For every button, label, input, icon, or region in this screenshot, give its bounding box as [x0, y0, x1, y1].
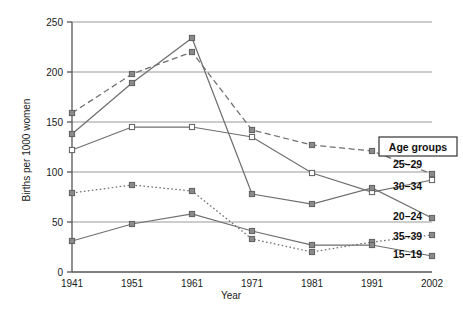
y-tick-label: 200	[46, 67, 63, 78]
legend-entry-25-29: 25–29	[393, 158, 422, 170]
data-point-marker	[249, 127, 254, 132]
chart-container: 050100150200250 194119511961197119811991…	[0, 0, 463, 314]
data-point-marker	[369, 242, 374, 247]
legend-title-text: Age groups	[389, 141, 447, 153]
data-point-marker	[129, 80, 134, 85]
data-point-marker	[69, 110, 74, 115]
data-point-marker	[189, 211, 194, 216]
data-point-marker	[369, 148, 374, 153]
x-axis-title: Year	[221, 290, 242, 301]
data-point-marker	[249, 134, 254, 139]
data-point-marker	[429, 215, 434, 220]
data-point-marker	[249, 191, 254, 196]
legend-entry-30-34: 30–34	[393, 180, 422, 192]
data-point-marker	[129, 124, 134, 129]
births-line-chart: 050100150200250 194119511961197119811991…	[0, 0, 463, 314]
x-tick-label: 1991	[361, 278, 384, 289]
x-tick-label: 2002	[421, 278, 444, 289]
data-point-marker	[129, 182, 134, 187]
data-point-marker	[309, 242, 314, 247]
data-point-marker	[369, 185, 374, 190]
y-axis-title: Births per 1000 women	[21, 99, 32, 202]
data-point-marker	[429, 232, 434, 237]
data-point-marker	[69, 238, 74, 243]
data-point-marker	[429, 253, 434, 258]
data-point-marker	[189, 188, 194, 193]
data-point-marker	[189, 124, 194, 129]
legend-entry-20-24: 20–24	[393, 210, 422, 222]
data-point-marker	[309, 170, 314, 175]
data-point-marker	[309, 249, 314, 254]
x-tick-label: 1981	[301, 278, 324, 289]
data-point-marker	[309, 201, 314, 206]
data-point-marker	[69, 190, 74, 195]
x-tick-label: 1941	[61, 278, 84, 289]
data-point-marker	[129, 221, 134, 226]
legend-entry-15-19: 15–19	[393, 248, 422, 260]
data-point-marker	[189, 35, 194, 40]
data-point-marker	[309, 142, 314, 147]
x-tick-label: 1951	[121, 278, 144, 289]
legend-entry-35-39: 35–39	[393, 230, 422, 242]
y-tick-label: 100	[46, 167, 63, 178]
data-point-marker	[69, 131, 74, 136]
data-point-marker	[189, 49, 194, 54]
y-tick-label: 0	[57, 267, 63, 278]
x-tick-label: 1971	[241, 278, 264, 289]
data-point-marker	[69, 147, 74, 152]
x-tick-label: 1961	[181, 278, 204, 289]
chart-background	[0, 0, 463, 314]
y-tick-label: 50	[52, 217, 64, 228]
y-tick-label: 250	[46, 17, 63, 28]
y-tick-label: 150	[46, 117, 63, 128]
data-point-marker	[429, 177, 434, 182]
data-point-marker	[249, 236, 254, 241]
data-point-marker	[129, 71, 134, 76]
data-point-marker	[429, 171, 434, 176]
data-point-marker	[249, 228, 254, 233]
